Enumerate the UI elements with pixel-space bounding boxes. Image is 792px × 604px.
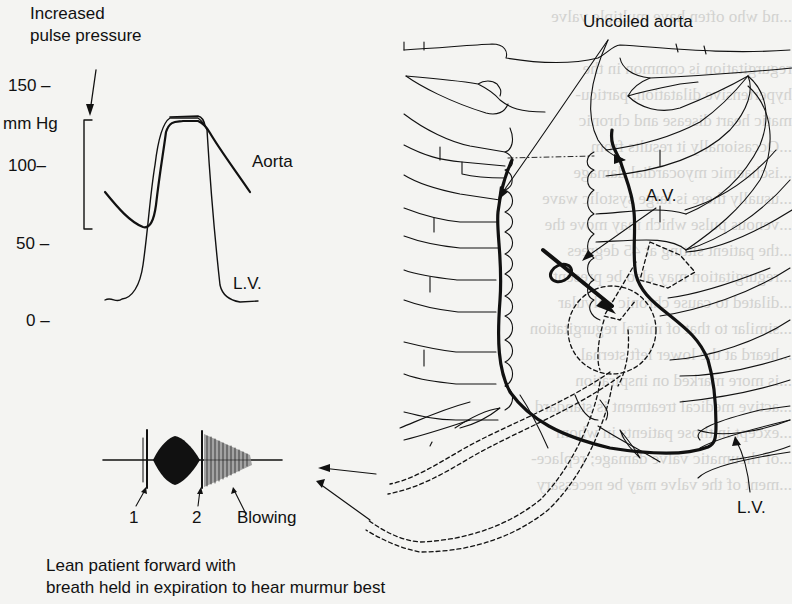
aorta-trace-label: Aorta: [252, 152, 293, 172]
rib-cage: [400, 42, 792, 478]
caption-line2: breath held in expiration to hear murmur…: [46, 578, 385, 598]
uncoiled-aorta-label: Uncoiled aorta: [583, 12, 693, 32]
y-axis-unit: mm Hg: [3, 114, 58, 134]
av-label: A.V.: [646, 186, 677, 206]
y-tick-100: 100–: [8, 156, 46, 176]
heart-outline: [498, 130, 716, 453]
pulse-pressure-label-line2: pulse pressure: [30, 26, 142, 46]
y-tick-150: 150 –: [8, 76, 51, 96]
pulse-pressure-label-line1: Increased: [30, 4, 105, 24]
s1-label: 1: [129, 508, 138, 528]
y-tick-50: 50 –: [16, 234, 49, 254]
pulse-pressure-arrow: [86, 70, 96, 116]
diagram-canvas: [0, 0, 792, 604]
blowing-murmur-label: Blowing: [237, 508, 297, 528]
chest-lv-label: L.V.: [737, 498, 766, 518]
s2-label: 2: [192, 508, 201, 528]
aorta-trace: [105, 121, 250, 227]
lv-trace-label: L.V.: [233, 274, 262, 294]
phonocardiogram: [103, 430, 282, 514]
caption-line1: Lean patient forward with: [46, 556, 236, 576]
dashed-heart-chambers: [366, 242, 695, 552]
lv-pointer: [732, 436, 750, 492]
pulse-pressure-bracket: [84, 120, 92, 229]
radiation-arrows: [316, 464, 376, 520]
y-tick-0: 0 –: [26, 311, 50, 331]
